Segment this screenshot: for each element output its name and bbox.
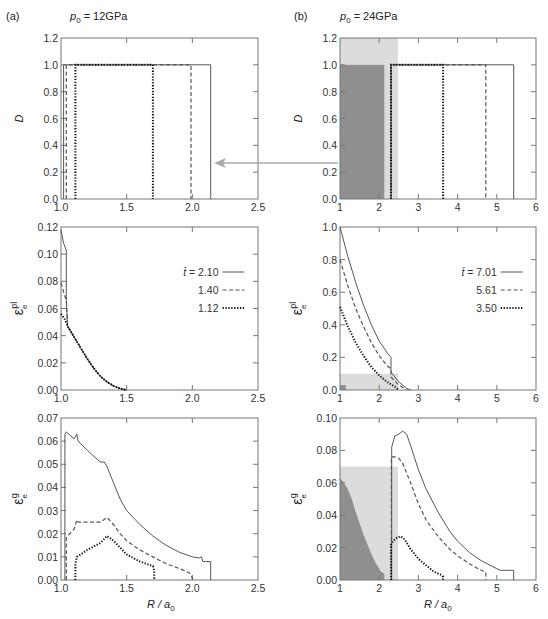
y-tick-label: 0.4 <box>322 319 337 331</box>
series-t-1-12 <box>61 314 127 390</box>
chart-b-mid: 1234560.00.20.40.60.81.0εeplt̄ = 7.015.6… <box>288 221 539 404</box>
x-tick-label: 2 <box>376 392 382 404</box>
x-tick-label: 5 <box>494 201 500 213</box>
series-t-5-61 <box>391 65 486 199</box>
x-tick-label: 2.5 <box>251 582 266 594</box>
x-tick-label: 1.5 <box>119 392 134 404</box>
x-tick-label: 6 <box>533 582 539 594</box>
y-tick-label: 0.07 <box>38 412 59 424</box>
x-tick-label: 3 <box>415 392 421 404</box>
y-tick-label: 0.4 <box>322 139 337 151</box>
y-tick-label: 0.06 <box>317 477 338 489</box>
x-tick-label: 2 <box>376 582 382 594</box>
x-tick-label: 2 <box>376 201 382 213</box>
y-tick-label: 0.02 <box>38 357 59 369</box>
series-t-3-50 <box>391 536 443 580</box>
plot-frame <box>61 38 258 199</box>
panel-a-pressure: p0 = 12GPa <box>69 10 128 25</box>
y-tick-label: 0.04 <box>38 330 59 342</box>
y-axis-label: D <box>13 114 25 122</box>
x-tick-label: 1 <box>337 582 343 594</box>
x-tick-label: 2.5 <box>251 392 266 404</box>
y-tick-label: 0.4 <box>43 139 58 151</box>
y-tick-label: 1.0 <box>43 59 58 71</box>
y-tick-label: 1.2 <box>43 32 58 44</box>
x-tick-label: 3 <box>415 201 421 213</box>
y-tick-label: 0.6 <box>322 113 337 125</box>
x-tick-label: 5 <box>494 392 500 404</box>
y-tick-label: 0.06 <box>38 435 59 447</box>
y-tick-label: 0.2 <box>322 351 337 363</box>
y-tick-label: 0.0 <box>322 384 337 396</box>
x-tick-label: 1.5 <box>119 582 134 594</box>
series-t-7-01 <box>340 227 411 390</box>
shaded-region-dark <box>340 385 346 390</box>
series-t-1-40 <box>66 65 191 199</box>
x-tick-label: 5 <box>494 582 500 594</box>
panel-b-pressure: p0 = 24GPa <box>339 10 398 25</box>
x-axis-label-b: R / a0 <box>424 598 452 613</box>
shaded-region-dark <box>340 65 384 199</box>
plot-frame <box>61 418 258 580</box>
x-tick-label: 1 <box>337 392 343 404</box>
x-tick-label: 6 <box>533 392 539 404</box>
y-tick-label: 0.00 <box>38 574 59 586</box>
y-tick-label: 0.08 <box>317 444 338 456</box>
x-tick-label: 2.0 <box>185 582 200 594</box>
y-tick-label: 1.0 <box>322 59 337 71</box>
x-tick-label: 2.0 <box>185 392 200 404</box>
series-t-7-01 <box>392 431 514 580</box>
chart-b-bot: 1234560.000.020.040.060.080.10εeg <box>288 412 539 594</box>
series-t-3-50 <box>391 65 443 199</box>
figure-canvas: (a) p0 = 12GPa (b) p0 = 24GPa 1.01.52.02… <box>0 0 548 619</box>
series-t-7-01 <box>391 65 514 199</box>
x-tick-label: 4 <box>455 392 461 404</box>
chart-a-top: 1.01.52.02.50.00.20.40.60.81.01.2D <box>13 32 265 213</box>
y-axis-label: εepl <box>9 302 29 316</box>
chart-b-top: 1234560.00.20.40.60.81.01.2D <box>292 32 539 213</box>
y-tick-label: 0.2 <box>43 166 58 178</box>
legend-label: t̄ = 2.10 <box>183 266 218 278</box>
chart-a-mid: 1.01.52.02.50.000.020.040.060.080.100.12… <box>9 221 265 404</box>
arrow-annotation <box>214 158 338 168</box>
legend-label: 1.40 <box>198 284 219 296</box>
x-axis-label-a: R / a0 <box>147 598 175 613</box>
y-tick-label: 0.04 <box>38 481 59 493</box>
legend-label: 3.50 <box>476 302 497 314</box>
x-tick-label: 1 <box>337 201 343 213</box>
y-axis-label: εeg <box>9 493 29 505</box>
y-axis-label: εeg <box>288 493 308 505</box>
y-tick-label: 0.0 <box>322 193 337 205</box>
y-tick-label: 0.6 <box>322 286 337 298</box>
y-tick-label: 0.10 <box>317 412 338 424</box>
y-tick-label: 0.8 <box>322 254 337 266</box>
y-tick-label: 0.8 <box>322 86 337 98</box>
series-t-1-12 <box>75 65 152 199</box>
y-tick-label: 0.8 <box>43 86 58 98</box>
series-t-1-12 <box>75 536 154 580</box>
x-tick-label: 6 <box>533 201 539 213</box>
y-tick-label: 1.2 <box>322 32 337 44</box>
plot-area: 1.01.52.02.50.00.20.40.60.81.01.2D123456… <box>9 32 539 594</box>
y-tick-label: 0.02 <box>38 528 59 540</box>
y-tick-label: 0.01 <box>38 551 59 563</box>
series-t-2-10 <box>65 432 211 580</box>
panel-a-label: (a) <box>6 10 19 22</box>
series-t-2-10 <box>64 65 211 199</box>
y-tick-label: 0.02 <box>317 542 338 554</box>
x-tick-label: 4 <box>455 582 461 594</box>
y-tick-label: 0.06 <box>38 303 59 315</box>
series-t-1-40 <box>61 283 127 390</box>
x-tick-label: 2.0 <box>185 201 200 213</box>
x-tick-label: 4 <box>455 201 461 213</box>
y-tick-label: 1.0 <box>322 221 337 233</box>
y-axis-label: D <box>292 114 304 122</box>
y-tick-label: 0.2 <box>322 166 337 178</box>
y-tick-label: 0.12 <box>38 221 59 233</box>
y-tick-label: 0.6 <box>43 113 58 125</box>
series-t-5-61 <box>391 457 485 580</box>
x-tick-label: 2.5 <box>251 201 266 213</box>
series-t-5-61 <box>340 260 407 390</box>
y-tick-label: 0.00 <box>317 574 338 586</box>
x-tick-label: 1.5 <box>119 201 134 213</box>
